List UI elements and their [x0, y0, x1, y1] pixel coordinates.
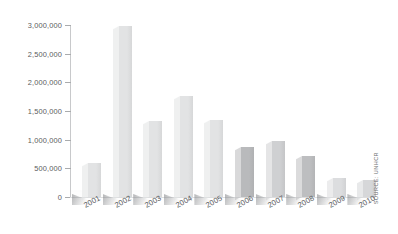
bar-2004 — [180, 96, 193, 197]
y-axis-tick — [65, 140, 71, 141]
y-axis-tick-label: 2,000,000 — [4, 78, 62, 87]
bar-face — [88, 163, 101, 197]
plot-area: ) 3,000,0002,500,0002,000,0001,500,0001,… — [0, 0, 398, 234]
bar-2003 — [149, 121, 162, 197]
y-axis-tick — [65, 54, 71, 55]
bar-face — [241, 147, 254, 197]
bar-face — [302, 156, 315, 197]
bar-face — [149, 121, 162, 197]
bar-2001 — [88, 163, 101, 197]
y-axis-tick-label: 2,500,000 — [4, 49, 62, 58]
bar-face — [180, 96, 193, 197]
bar-face — [119, 26, 132, 197]
y-axis-tick-label: 500,000 — [4, 164, 62, 173]
bar-2006 — [241, 147, 254, 197]
source-credit: SOURCE: UNHCR — [373, 152, 379, 204]
bar-face — [210, 120, 223, 197]
y-axis-tick-label: 1,500,000 — [4, 107, 62, 116]
bar-2002 — [119, 26, 132, 197]
y-axis-tick — [65, 111, 71, 112]
y-axis-tick — [65, 25, 71, 26]
bar-2007 — [272, 141, 285, 197]
bar-2008 — [302, 156, 315, 197]
y-axis-tick-label: 1,000,000 — [4, 135, 62, 144]
y-axis-tick — [65, 168, 71, 169]
bar-chart: ) 3,000,0002,500,0002,000,0001,500,0001,… — [0, 0, 398, 234]
bar-2005 — [210, 120, 223, 197]
bar-face — [272, 141, 285, 197]
y-axis-tick-label: 0 — [4, 193, 62, 202]
y-axis-tick — [65, 82, 71, 83]
y-axis-tick-label: 3,000,000 — [4, 21, 62, 30]
